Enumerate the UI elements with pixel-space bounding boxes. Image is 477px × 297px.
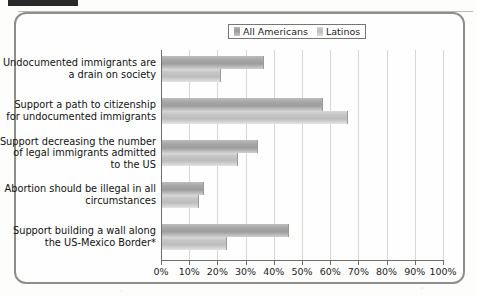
scanned-page-background: All Americans Latinos Undocumented immig… [0,0,477,297]
chart-bar-all-americans [162,56,264,69]
x-axis-tick-label: 70% [348,266,369,277]
chart-bar-latinos [162,195,199,208]
chart-bar-latinos [162,237,227,250]
page-top-black-marker [8,0,78,6]
chart-category-label: Undocumented immigrants are a drain on s… [0,57,156,80]
x-axis-tick [189,261,190,265]
legend-swatch-all-americans-icon [234,27,240,36]
chart-category-label: Support building a wall along the US-Mex… [0,225,156,248]
x-axis-tick-label: 90% [404,266,425,277]
chart-bar-latinos [162,69,221,82]
x-axis-tick [246,261,247,265]
x-axis-tick [161,261,162,265]
x-axis-tick [274,261,275,265]
chart-bar-all-americans [162,98,323,111]
y-axis-line [161,50,162,261]
x-axis-tick-label: 0% [153,266,168,277]
legend-swatch-latinos-icon [317,27,323,36]
chart-legend: All Americans Latinos [228,24,366,39]
x-axis-tick [358,261,359,265]
chart-category-row: Abortion should be illegal in all circum… [161,176,443,218]
x-axis-tick-label: 20% [207,266,228,277]
chart-category-label: Support decreasing the number of legal i… [0,136,156,171]
legend-label-all-americans: All Americans [243,27,308,37]
chart-bar-latinos [162,111,348,124]
x-axis-tick [387,261,388,265]
chart-category-row: Support building a wall along the US-Mex… [161,218,443,260]
x-axis-tick [330,261,331,265]
x-axis-tick [415,261,416,265]
x-axis-tick [217,261,218,265]
chart-category-label: Support a path to citizenship for undocu… [0,99,156,122]
x-axis-tick-label: 50% [291,266,312,277]
scan-speck [120,290,123,292]
chart-plot-area: Undocumented immigrants are a drain on s… [161,50,443,260]
x-axis-tick-label: 100% [429,266,456,277]
chart-category-row: Support decreasing the number of legal i… [161,134,443,176]
x-axis-tick-label: 30% [235,266,256,277]
x-axis-tick-label: 40% [263,266,284,277]
chart-bar-all-americans [162,140,258,153]
chart-bar-latinos [162,153,238,166]
chart-category-row: Support a path to citizenship for undocu… [161,92,443,134]
x-axis-tick-label: 80% [376,266,397,277]
chart-category-row: Undocumented immigrants are a drain on s… [161,50,443,92]
x-gridline [443,50,444,260]
chart-bar-all-americans [162,224,289,237]
legend-entry-latinos: Latinos [317,27,360,37]
chart-bar-all-americans [162,182,204,195]
x-axis-tick [302,261,303,265]
legend-entry-all-americans: All Americans [234,27,308,37]
x-axis-tick-label: 60% [320,266,341,277]
x-axis-tick [443,261,444,265]
x-axis-tick-label: 10% [179,266,200,277]
scan-speck [420,287,424,289]
chart-category-label: Abortion should be illegal in all circum… [0,183,156,206]
legend-label-latinos: Latinos [326,27,360,37]
